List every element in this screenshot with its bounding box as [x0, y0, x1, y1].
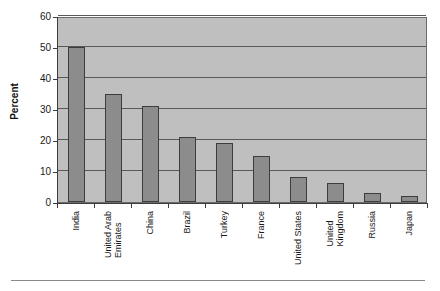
x-axis-tick-label-line: Japan	[404, 211, 414, 236]
x-axis-tick-label-line: India	[71, 211, 81, 231]
x-axis-tick-mark	[279, 204, 280, 208]
y-axis-tick-label: 60	[5, 12, 51, 22]
y-axis-tick-mark	[53, 79, 57, 80]
x-axis-tick-label: China	[145, 211, 155, 235]
x-axis-tick-label-line: United	[325, 211, 335, 247]
x-axis-tick-label-line: Emirates	[113, 211, 123, 258]
y-axis-tick-mark	[53, 172, 57, 173]
bars-group	[58, 18, 426, 202]
x-axis-tick-label: UnitedKingdom	[325, 211, 345, 247]
x-axis-tick-mark	[94, 204, 95, 208]
y-axis-tick-mark	[53, 141, 57, 142]
x-axis-tick-mark	[168, 204, 169, 208]
bar	[142, 106, 159, 202]
x-axis-tick-label-line: France	[256, 211, 266, 239]
x-axis-tick-label: United States	[293, 211, 303, 265]
bar	[327, 183, 344, 202]
y-axis-tick-label: 50	[5, 43, 51, 53]
y-axis-tick-mark	[53, 48, 57, 49]
gridline	[58, 15, 426, 16]
x-axis-tick-mark	[131, 204, 132, 208]
x-axis-tick-label-line: Brazil	[182, 211, 192, 234]
bar	[105, 94, 122, 203]
bar	[290, 177, 307, 202]
bar	[68, 47, 85, 202]
bar	[179, 137, 196, 202]
x-axis-tick-label-line: United Arab	[103, 211, 113, 258]
y-axis-tick-label: 10	[5, 167, 51, 177]
plot-area	[57, 17, 427, 203]
x-axis-tick-label-line: China	[145, 211, 155, 235]
x-axis-tick-label: India	[71, 211, 81, 231]
bar	[253, 156, 270, 203]
y-axis-tick-label: 0	[5, 198, 51, 208]
x-axis-tick-label-line: Turkey	[219, 211, 229, 238]
x-axis-tick-mark	[390, 204, 391, 208]
x-axis-tick-label: France	[256, 211, 266, 239]
bar	[401, 196, 418, 202]
bar-chart-figure: 6050403020100 Percent IndiaUnited ArabEm…	[0, 0, 440, 291]
x-axis-tick-label: Brazil	[182, 211, 192, 234]
y-axis-title: Percent	[9, 72, 20, 132]
bottom-divider-rule	[11, 280, 425, 281]
x-axis-tick-label: Russia	[367, 211, 377, 239]
bar	[216, 143, 233, 202]
x-axis-tick-label-line: Russia	[367, 211, 377, 239]
x-axis-tick-label-line: Kingdom	[335, 211, 345, 247]
x-axis-tick-mark	[57, 204, 58, 208]
x-axis-tick-mark	[242, 204, 243, 208]
x-axis-tick-mark	[427, 204, 428, 208]
y-axis-tick-label: 20	[5, 136, 51, 146]
y-axis-tick-mark	[53, 110, 57, 111]
y-axis-line	[57, 17, 58, 204]
x-axis-tick-label: Turkey	[219, 211, 229, 238]
x-axis-tick-label: United ArabEmirates	[103, 211, 123, 258]
x-axis-tick-label-line: United States	[293, 211, 303, 265]
x-axis-tick-label: Japan	[404, 211, 414, 236]
bar	[364, 193, 381, 202]
x-axis-tick-mark	[316, 204, 317, 208]
x-axis-tick-mark	[205, 204, 206, 208]
y-axis-tick-labels: 6050403020100	[0, 0, 51, 291]
x-axis-tick-mark	[353, 204, 354, 208]
y-axis-tick-mark	[53, 17, 57, 18]
